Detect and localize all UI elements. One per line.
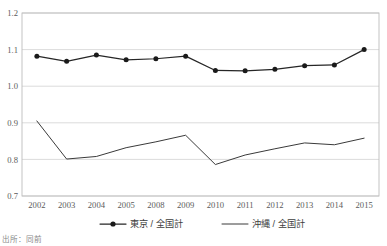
data-point-marker xyxy=(124,57,129,62)
data-point-marker xyxy=(94,53,99,58)
data-point-marker xyxy=(183,54,188,59)
x-tick-label: 2013 xyxy=(296,200,313,210)
legend-swatch-marker xyxy=(110,221,115,226)
data-point-marker xyxy=(332,62,337,67)
data-point-marker xyxy=(243,68,248,73)
data-point-marker xyxy=(153,56,158,61)
x-tick-label: 2002 xyxy=(28,200,45,210)
source-note: 出所：同前 xyxy=(2,234,42,244)
data-point-marker xyxy=(64,59,69,64)
legend-label: 沖縄 / 全国計 xyxy=(252,218,305,229)
x-tick-label: 2004 xyxy=(88,200,106,210)
x-tick-label: 2011 xyxy=(237,200,254,210)
x-tick-label: 2003 xyxy=(58,200,75,210)
legend-label: 東京 / 全国計 xyxy=(130,218,183,229)
data-point-marker xyxy=(34,54,39,59)
x-tick-label: 2014 xyxy=(326,200,344,210)
y-tick-label: 0.8 xyxy=(7,155,18,165)
x-tick-label: 2005 xyxy=(118,200,135,210)
x-tick-label: 2010 xyxy=(207,200,224,210)
data-point-marker xyxy=(302,63,307,68)
chart-container: 0.70.80.91.01.11.2 200220032004200520082… xyxy=(0,0,387,246)
data-point-marker xyxy=(362,47,367,52)
y-tick-label: 0.9 xyxy=(7,118,18,128)
y-tick-label: 0.7 xyxy=(7,191,18,201)
data-point-marker xyxy=(213,68,218,73)
x-tick-label: 2008 xyxy=(147,200,164,210)
x-tick-label: 2012 xyxy=(266,200,283,210)
x-tick-label: 2015 xyxy=(356,200,373,210)
line-chart: 0.70.80.91.01.11.2 200220032004200520082… xyxy=(0,0,387,246)
x-tick-label: 2009 xyxy=(177,200,194,210)
y-tick-label: 1.2 xyxy=(7,8,18,18)
data-point-marker xyxy=(272,67,277,72)
y-tick-label: 1.0 xyxy=(7,81,18,91)
y-tick-label: 1.1 xyxy=(7,45,18,55)
